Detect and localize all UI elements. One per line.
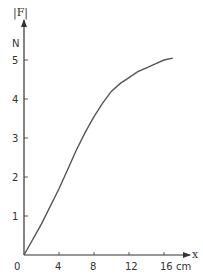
y-tick-label: 5 <box>12 55 18 66</box>
y-tick-label: 2 <box>12 172 18 183</box>
force-curve <box>24 58 173 255</box>
y-axis-title: |F| <box>13 6 28 20</box>
x-tick-label: 16 cm <box>160 261 191 272</box>
y-unit-label: N <box>12 38 19 49</box>
force-displacement-chart: 481216 cm 12345 |F| N x 0 <box>0 0 203 277</box>
y-tick-label: 1 <box>12 211 18 222</box>
origin-label: 0 <box>14 261 20 272</box>
axes <box>24 20 190 255</box>
y-tick-label: 3 <box>12 133 18 144</box>
x-axis-title: x <box>192 248 199 261</box>
x-tick-label: 4 <box>55 261 61 272</box>
y-tick-label: 4 <box>12 94 18 105</box>
x-tick-label: 12 <box>125 261 138 272</box>
x-tick-label: 8 <box>90 261 96 272</box>
y-ticks: 12345 <box>12 55 28 222</box>
